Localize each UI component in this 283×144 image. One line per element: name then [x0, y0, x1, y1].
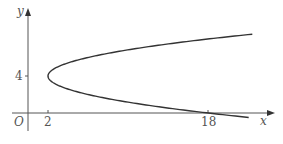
x-tick-label-18: 18: [201, 115, 216, 129]
x-axis-arrow-icon: [267, 110, 275, 116]
y-axis-label: y: [16, 4, 24, 18]
x-tick-label-2: 2: [44, 115, 52, 129]
parabola-curve: [48, 34, 252, 117]
parabola-chart: y x O 2 18 4: [0, 0, 283, 144]
y-tick-label-4: 4: [15, 69, 23, 83]
origin-label: O: [14, 115, 24, 129]
y-axis-arrow-icon: [25, 8, 31, 16]
x-axis-label: x: [260, 114, 267, 128]
